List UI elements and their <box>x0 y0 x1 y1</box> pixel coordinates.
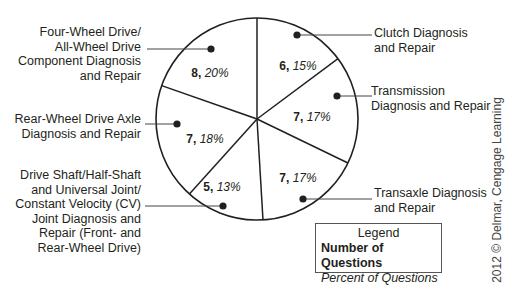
category-label: TransmissionDiagnosis and Repair <box>371 84 491 113</box>
slice-value: 7, 17% <box>279 171 316 185</box>
legend-box: Legend Number of Questions Percent of Qu… <box>315 223 442 273</box>
copyright-credit: 2012 © Delmar, Cengage Learning <box>490 97 504 283</box>
slice-marker-dot <box>333 92 340 99</box>
slice-marker-dot <box>299 195 306 202</box>
slice-marker-dot <box>219 202 226 209</box>
category-label: Clutch Diagnosisand Repair <box>374 26 468 55</box>
category-label: Rear-Wheel Drive AxleDiagnosis and Repai… <box>15 112 141 141</box>
legend-percent-entry: Percent of Questions <box>316 271 441 286</box>
slice-marker-dot <box>173 120 180 127</box>
legend-title: Legend <box>316 226 441 241</box>
slice-value: 6, 15% <box>279 59 316 73</box>
slice-value: 7, 18% <box>186 132 223 146</box>
slice-marker-dot <box>293 31 300 38</box>
slice-value: 5, 13% <box>203 180 240 194</box>
slice-value: 8, 20% <box>191 66 228 80</box>
slice-marker-dot <box>207 45 214 52</box>
slice-value: 7, 17% <box>293 110 330 124</box>
category-label: Four-Wheel Drive/All-Wheel DriveComponen… <box>18 25 141 83</box>
category-label: Drive Shaft/Half-Shaftand Universal Join… <box>15 168 141 256</box>
legend-number-entry: Number of Questions <box>316 241 441 271</box>
category-label: Transaxle Diagnosisand Repair <box>374 186 487 215</box>
